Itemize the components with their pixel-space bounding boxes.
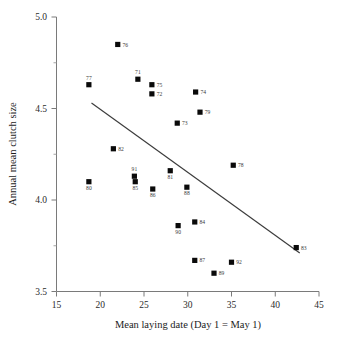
- data-point-marker: [193, 89, 198, 94]
- data-point-label: 75: [157, 82, 163, 88]
- y-axis-title: Annual mean clutch size: [7, 102, 18, 206]
- data-point-label: 82: [118, 146, 124, 152]
- data-point-marker: [175, 121, 180, 126]
- data-point-label: 79: [205, 109, 211, 115]
- data-point-label: 85: [132, 185, 138, 191]
- x-axis-title: Mean laying date (Day 1 = May 1): [115, 319, 262, 331]
- data-point-label: 76: [123, 42, 129, 48]
- x-tick-label: 40: [271, 300, 281, 310]
- data-point-marker: [133, 179, 138, 184]
- data-point-label: 77: [86, 75, 92, 81]
- data-point-marker: [115, 42, 120, 47]
- data-point-marker: [197, 110, 202, 115]
- data-point-marker: [86, 179, 91, 184]
- data-point-marker: [192, 219, 197, 224]
- data-point-label: 83: [301, 245, 307, 251]
- data-point-label: 81: [167, 174, 173, 180]
- data-point-label: 80: [86, 185, 92, 191]
- data-point-marker: [149, 91, 154, 96]
- data-point-label: 71: [135, 69, 141, 75]
- y-tick-label: 4.0: [35, 195, 47, 205]
- data-point-marker: [135, 77, 140, 82]
- regression-line: [92, 103, 300, 253]
- data-point-label: 84: [200, 219, 206, 225]
- data-point-marker: [168, 168, 173, 173]
- trend-line-group: [92, 103, 300, 253]
- y-axis-ticks: 3.54.04.55.0: [35, 12, 56, 297]
- scatter-plot-figure: 3.54.04.55.0 15202530354045 778082769185…: [0, 0, 340, 339]
- data-point-label: 74: [200, 89, 206, 95]
- data-point-marker: [192, 258, 197, 263]
- data-point-marker: [294, 245, 299, 250]
- data-point-label: 90: [175, 229, 181, 235]
- data-point-marker: [111, 146, 116, 151]
- x-tick-label: 20: [96, 300, 106, 310]
- data-point-marker: [231, 163, 236, 168]
- data-point-marker: [132, 174, 137, 179]
- chart-canvas: 3.54.04.55.0 15202530354045 778082769185…: [0, 0, 340, 339]
- y-tick-label: 4.5: [35, 104, 47, 114]
- data-point-marker: [150, 186, 155, 191]
- data-point-marker: [211, 271, 216, 276]
- x-tick-label: 25: [139, 300, 149, 310]
- data-point-marker: [176, 223, 181, 228]
- data-point-label: 86: [150, 192, 156, 198]
- data-points-group: 7780827691857175728681739088748487798992…: [86, 42, 307, 277]
- data-point-label: 78: [238, 162, 244, 168]
- data-point-marker: [184, 185, 189, 190]
- data-point-label: 88: [184, 190, 190, 196]
- data-point-label: 87: [200, 257, 206, 263]
- data-point-marker: [86, 82, 91, 87]
- x-axis-ticks: 15202530354045: [52, 292, 324, 311]
- data-point-label: 91: [132, 166, 138, 172]
- data-point-marker: [149, 82, 154, 87]
- y-tick-label: 5.0: [35, 12, 47, 22]
- data-point-label: 89: [219, 270, 225, 276]
- data-point-label: 73: [182, 120, 188, 126]
- axes-group: [57, 17, 320, 292]
- x-tick-label: 30: [183, 300, 193, 310]
- y-tick-label: 3.5: [35, 287, 47, 297]
- x-tick-label: 15: [52, 300, 62, 310]
- data-point-label: 72: [157, 91, 163, 97]
- data-point-label: 92: [236, 259, 242, 265]
- x-tick-label: 45: [314, 300, 324, 310]
- x-tick-label: 35: [227, 300, 237, 310]
- data-point-marker: [229, 260, 234, 265]
